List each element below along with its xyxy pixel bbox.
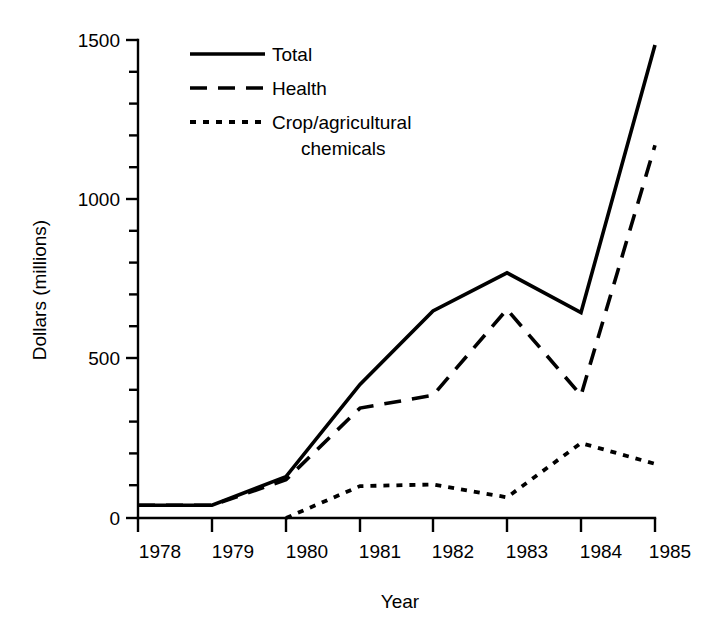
line-chart: 1500 1000 500 0 1978 1979 1980 1981 1982…: [0, 0, 708, 641]
legend-item-health: Health: [190, 78, 327, 99]
y-tick-labels: 1500 1000 500 0: [78, 30, 120, 529]
y-major-ticks: [126, 40, 138, 518]
x-tick-label-1978: 1978: [139, 541, 181, 562]
series-line-crop: [286, 443, 655, 518]
y-tick-label-1000: 1000: [78, 189, 120, 210]
y-axis-title: Dollars (millions): [29, 220, 50, 360]
legend-label-crop-line2: chemicals: [301, 138, 385, 159]
legend-label-total: Total: [272, 44, 312, 65]
legend-item-crop: Crop/agricultural chemicals: [190, 112, 411, 159]
x-tick-label-1981: 1981: [359, 541, 401, 562]
x-tick-label-1980: 1980: [286, 541, 328, 562]
legend-label-health: Health: [272, 78, 327, 99]
legend-item-total: Total: [190, 44, 312, 65]
x-tick-label-1984: 1984: [580, 541, 623, 562]
legend-label-crop: Crop/agricultural: [272, 112, 411, 133]
x-axis-title: Year: [381, 591, 420, 612]
y-tick-label-1500: 1500: [78, 30, 120, 51]
legend: Total Health Crop/agricultural chemicals: [190, 44, 411, 159]
y-minor-ticks: [129, 72, 138, 485]
x-tick-label-1979: 1979: [212, 541, 254, 562]
x-tick-labels: 1978 1979 1980 1981 1982 1983 1984 1985: [139, 541, 691, 562]
x-ticks: [138, 518, 655, 532]
x-tick-label-1985: 1985: [649, 541, 691, 562]
series-line-health: [138, 145, 655, 505]
x-tick-label-1983: 1983: [506, 541, 548, 562]
y-tick-label-500: 500: [88, 348, 120, 369]
x-tick-label-1982: 1982: [432, 541, 474, 562]
y-tick-label-0: 0: [109, 508, 120, 529]
